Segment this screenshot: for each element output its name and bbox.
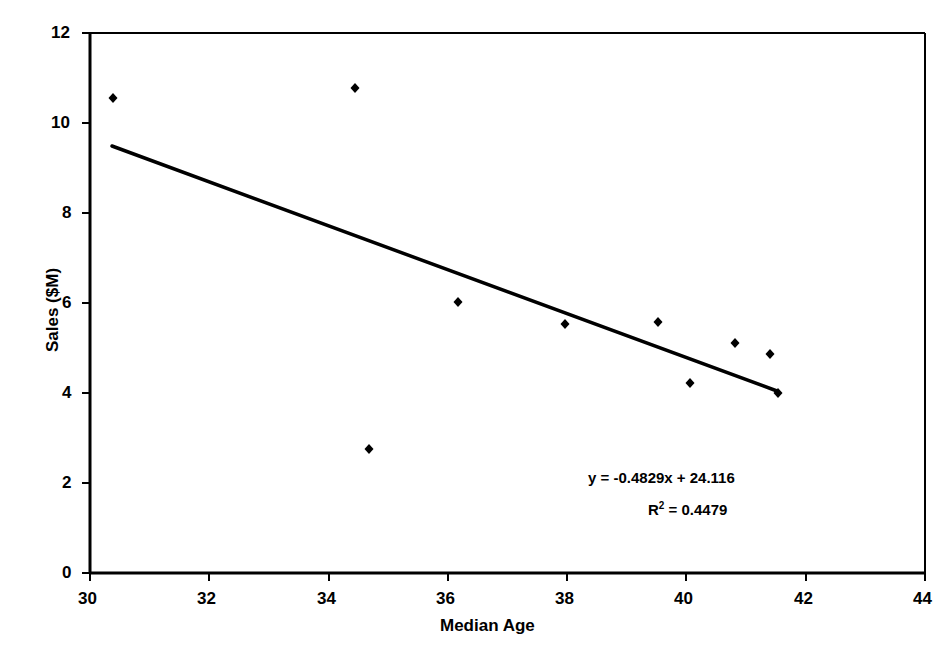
y-tick-label-2: 2 bbox=[62, 473, 71, 493]
y-tick-label-0: 0 bbox=[62, 563, 71, 583]
x-tick-label-42: 42 bbox=[794, 589, 813, 609]
y-tick-label-8: 8 bbox=[62, 203, 71, 223]
y-tick-label-4: 4 bbox=[62, 383, 71, 403]
y-axis-title: Sales ($M) bbox=[43, 245, 63, 375]
r-squared-label: R2 = 0.4479 bbox=[648, 500, 727, 518]
data-point bbox=[686, 378, 695, 388]
data-point bbox=[454, 297, 463, 307]
trendline-equation-label: y = -0.4829x + 24.116 bbox=[588, 469, 735, 486]
chart-canvas bbox=[0, 0, 947, 653]
trendline bbox=[112, 146, 777, 391]
r-squared-value: = 0.4479 bbox=[664, 501, 727, 518]
scatter-chart: 12 10 8 6 4 2 0 30 32 34 36 38 40 42 44 … bbox=[0, 0, 947, 653]
x-tick-label-34: 34 bbox=[317, 589, 336, 609]
data-point bbox=[654, 317, 663, 327]
x-tick-label-38: 38 bbox=[555, 589, 574, 609]
plot-frame bbox=[90, 33, 925, 573]
y-tick-label-6: 6 bbox=[62, 293, 71, 313]
data-point bbox=[109, 93, 118, 103]
x-tick-label-44: 44 bbox=[913, 589, 932, 609]
data-point bbox=[365, 444, 374, 454]
x-axis-title: Median Age bbox=[440, 616, 535, 636]
x-tick-label-36: 36 bbox=[436, 589, 455, 609]
x-tick-label-40: 40 bbox=[674, 589, 693, 609]
data-point bbox=[351, 83, 360, 93]
x-tick-label-30: 30 bbox=[78, 589, 97, 609]
data-point bbox=[766, 349, 775, 359]
data-point bbox=[731, 338, 740, 348]
r-squared-symbol: R bbox=[648, 501, 659, 518]
data-point bbox=[561, 319, 570, 329]
x-tick-label-32: 32 bbox=[197, 589, 216, 609]
y-tick-label-10: 10 bbox=[51, 113, 70, 133]
y-tick-label-12: 12 bbox=[51, 23, 70, 43]
